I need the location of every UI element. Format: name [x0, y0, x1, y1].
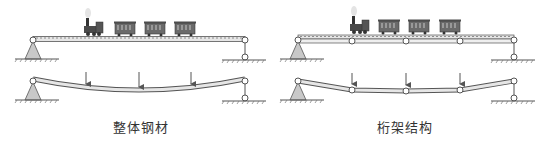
diagram-stage: 整体钢材 桁架结构 — [0, 0, 542, 141]
train-top-right — [350, 6, 461, 35]
roller-support-icon — [242, 54, 248, 60]
pin-support-icon — [25, 41, 41, 59]
caption-solid-steel: 整体钢材 — [113, 117, 169, 136]
truss-joint-icon — [349, 38, 355, 44]
beam-top-left — [33, 37, 245, 42]
panel-solid-steel — [15, 8, 266, 104]
load-arrows-right — [352, 73, 460, 85]
caption-truss: 桁架结构 — [377, 117, 433, 136]
train-top-left — [84, 8, 196, 37]
bridge-diagram — [0, 0, 542, 141]
panel-truss — [280, 6, 535, 104]
load-arrows-left — [86, 72, 191, 87]
